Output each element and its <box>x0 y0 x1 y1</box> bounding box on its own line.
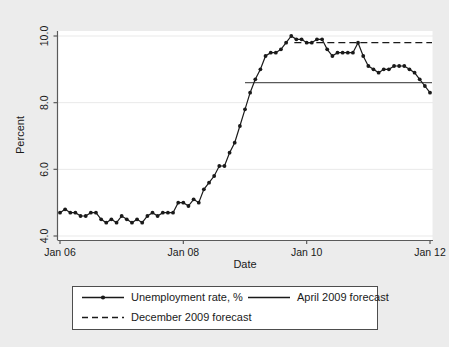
data-point <box>377 71 381 75</box>
data-point <box>228 151 232 155</box>
x-tick-label: Jan 10 <box>291 246 323 258</box>
data-point <box>372 67 376 71</box>
data-point <box>315 37 319 41</box>
data-point <box>248 91 252 95</box>
data-point <box>176 201 180 205</box>
data-point <box>361 54 365 58</box>
x-tick-label: Jan 12 <box>414 246 446 258</box>
data-point <box>68 211 72 215</box>
data-point <box>264 54 268 58</box>
data-point <box>223 164 227 168</box>
data-point <box>382 67 386 71</box>
data-point <box>402 64 406 68</box>
x-tick-label: Jan 06 <box>44 246 76 258</box>
y-tick-label: 10.0 <box>38 26 50 47</box>
data-point <box>300 37 304 41</box>
x-axis-title: Date <box>233 258 256 270</box>
data-point <box>274 51 278 55</box>
data-point <box>233 141 237 145</box>
data-point <box>104 221 108 225</box>
data-point <box>320 37 324 41</box>
data-point <box>259 67 263 71</box>
data-point <box>294 37 298 41</box>
data-point <box>181 201 185 205</box>
data-point <box>428 91 432 95</box>
data-point <box>109 217 113 221</box>
data-point <box>151 211 155 215</box>
data-point <box>387 67 391 71</box>
data-point <box>125 217 129 221</box>
data-point <box>74 211 78 215</box>
data-point <box>89 211 93 215</box>
data-point <box>202 187 206 191</box>
x-axis-tick-labels: Jan 06Jan 08Jan 10Jan 12 <box>44 246 446 258</box>
data-point <box>197 201 201 205</box>
data-point <box>156 214 160 218</box>
data-point <box>243 107 247 111</box>
chart-figure: 4.06.08.010.0 Jan 06Jan 08Jan 10Jan 12 P… <box>0 0 449 347</box>
data-point <box>279 47 283 51</box>
data-point <box>289 34 293 38</box>
data-point <box>413 71 417 75</box>
data-point <box>284 41 288 45</box>
legend-label-unemployment-rate: Unemployment rate, % <box>131 291 243 303</box>
data-point <box>120 214 124 218</box>
data-point <box>341 51 345 55</box>
data-point <box>207 181 211 185</box>
data-point <box>310 41 314 45</box>
data-point <box>269 51 273 55</box>
data-point <box>145 214 149 218</box>
data-point <box>418 77 422 81</box>
data-point <box>366 64 370 68</box>
unemployment-rate-chart: 4.06.08.010.0 Jan 06Jan 08Jan 10Jan 12 P… <box>0 0 449 347</box>
legend-label-april-forecast: April 2009 forecast <box>297 291 389 303</box>
data-point <box>171 211 175 215</box>
data-point <box>325 47 329 51</box>
data-point <box>63 207 67 211</box>
data-point <box>140 221 144 225</box>
data-point <box>330 54 334 58</box>
data-point <box>135 217 139 221</box>
data-point <box>79 214 83 218</box>
legend-label-december-forecast: December 2009 forecast <box>131 311 251 323</box>
data-point <box>94 211 98 215</box>
legend-marker-unemployment-rate <box>101 295 105 299</box>
data-point <box>392 64 396 68</box>
data-point <box>346 51 350 55</box>
data-point <box>238 124 242 128</box>
data-point <box>58 211 62 215</box>
data-point <box>192 197 196 201</box>
data-point <box>99 217 103 221</box>
data-point <box>161 211 165 215</box>
data-point <box>351 51 355 55</box>
data-point <box>408 67 412 71</box>
y-tick-label: 6.0 <box>38 162 50 177</box>
data-point <box>423 84 427 88</box>
data-point <box>305 41 309 45</box>
data-point <box>84 214 88 218</box>
data-point <box>217 164 221 168</box>
data-point <box>187 204 191 208</box>
y-tick-label: 4.0 <box>38 229 50 244</box>
data-point <box>397 64 401 68</box>
y-axis-tick-labels: 4.06.08.010.0 <box>38 26 50 244</box>
x-tick-label: Jan 08 <box>168 246 200 258</box>
plot-area-background <box>58 31 433 240</box>
data-point <box>336 51 340 55</box>
data-point <box>212 174 216 178</box>
data-point <box>130 221 134 225</box>
data-point <box>115 221 119 225</box>
data-point <box>356 41 360 45</box>
y-axis-title: Percent <box>14 116 26 154</box>
data-point <box>166 211 170 215</box>
data-point <box>253 77 257 81</box>
y-tick-label: 8.0 <box>38 95 50 110</box>
